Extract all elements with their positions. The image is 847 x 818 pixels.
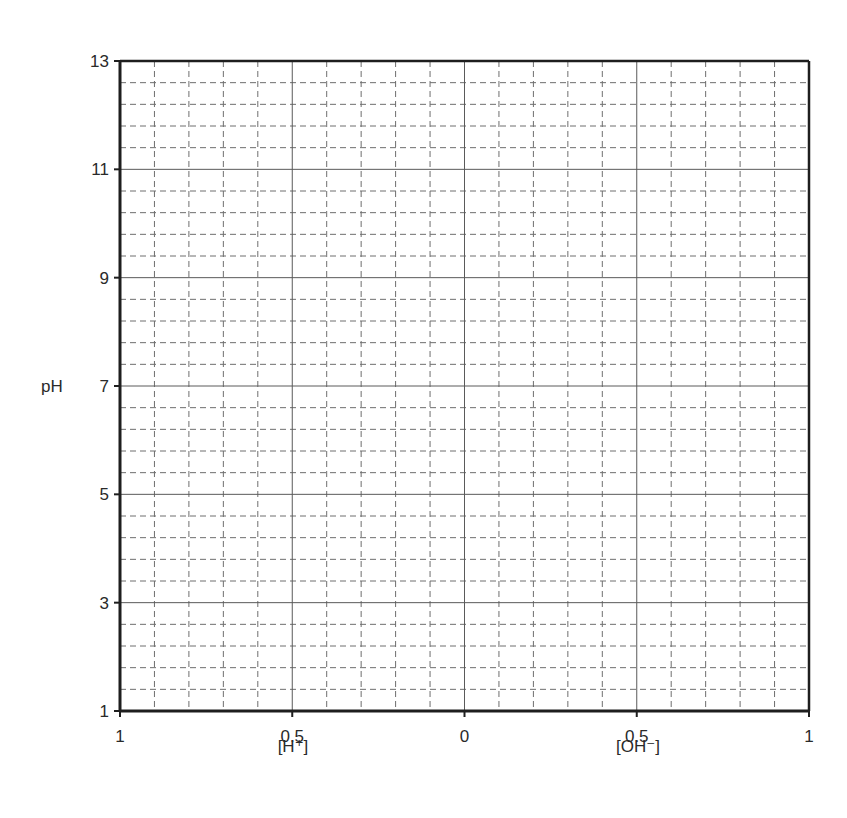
y-tick-label: 1 (100, 702, 109, 721)
y-axis-title: pH (41, 377, 63, 396)
y-tick-labels: 135791113 (90, 52, 109, 721)
axes (114, 61, 809, 717)
y-tick-label: 9 (100, 269, 109, 288)
y-tick-label: 7 (100, 377, 109, 396)
x-tick-label: 0 (460, 727, 469, 746)
y-tick-label: 13 (90, 52, 109, 71)
y-tick-label: 11 (91, 160, 109, 179)
x-tick-label: 1 (804, 727, 813, 746)
x-tick-labels: 10.500.51 (115, 727, 813, 746)
y-tick-label: 3 (100, 594, 109, 613)
x-axis-title-h: [H⁺] (278, 737, 309, 756)
x-axis-title-oh: [OH⁻] (616, 737, 660, 756)
y-tick-label: 5 (100, 485, 109, 504)
ph-chart: 135791113 10.500.51 pH [H⁺] [OH⁻] (0, 0, 847, 818)
x-tick-label: 1 (115, 727, 124, 746)
